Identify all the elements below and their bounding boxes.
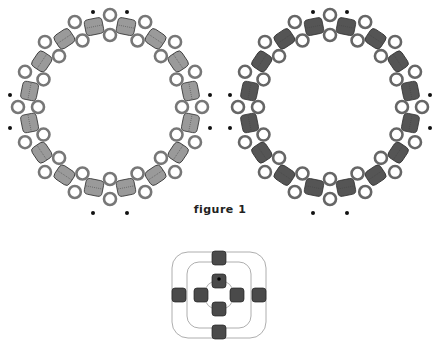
barrel-bead bbox=[84, 178, 105, 197]
ring-bead bbox=[139, 16, 151, 28]
ring-bead bbox=[296, 168, 308, 180]
cube-bead bbox=[212, 325, 226, 339]
ring-bead bbox=[155, 50, 167, 62]
ring-bead bbox=[189, 136, 201, 148]
ring-bead bbox=[324, 29, 336, 41]
ring-bead bbox=[76, 168, 88, 180]
barrel-bead bbox=[116, 178, 137, 197]
ring-bead bbox=[375, 152, 387, 164]
cube-bead bbox=[172, 288, 186, 302]
ring-bead bbox=[104, 173, 116, 185]
barrel-bead bbox=[304, 17, 325, 36]
cube-bead bbox=[212, 274, 226, 288]
ring-bead bbox=[69, 16, 81, 28]
ring-bead bbox=[375, 50, 387, 62]
ring-bead bbox=[53, 50, 65, 62]
ring-bead bbox=[232, 101, 244, 113]
marker-dot bbox=[125, 10, 129, 14]
ring-bead bbox=[416, 101, 428, 113]
ring-light bbox=[8, 9, 212, 215]
ring-bead bbox=[32, 101, 44, 113]
marker-dot bbox=[428, 126, 432, 130]
ring-bead bbox=[389, 166, 401, 178]
ring-bead bbox=[257, 73, 269, 85]
ring-bead bbox=[176, 101, 188, 113]
marker-dot bbox=[8, 93, 12, 97]
ring-bead bbox=[39, 166, 51, 178]
ring-bead bbox=[104, 9, 116, 21]
barrel-bead bbox=[273, 164, 297, 187]
ring-bead bbox=[155, 152, 167, 164]
marker-dot bbox=[208, 126, 212, 130]
ring-bead bbox=[352, 34, 364, 46]
ring-bead bbox=[259, 36, 271, 48]
marker-dot bbox=[311, 10, 315, 14]
cube-bead bbox=[212, 302, 226, 316]
barrel-bead bbox=[240, 81, 259, 102]
marker-dot bbox=[208, 93, 212, 97]
barrel-bead bbox=[20, 81, 39, 102]
ring-bead bbox=[104, 29, 116, 41]
ring-bead bbox=[239, 66, 251, 78]
ring-bead bbox=[273, 152, 285, 164]
barrel-bead bbox=[30, 50, 53, 74]
ring-bead bbox=[169, 36, 181, 48]
ring-bead bbox=[39, 36, 51, 48]
barrel-bead bbox=[167, 141, 190, 165]
ring-bead bbox=[171, 129, 183, 141]
barrel-bead bbox=[181, 81, 200, 102]
barrel-bead bbox=[273, 27, 297, 50]
marker-dot bbox=[228, 126, 232, 130]
barrel-bead bbox=[336, 178, 357, 197]
barrel-bead bbox=[116, 17, 137, 36]
ring-bead bbox=[257, 129, 269, 141]
ring-bead bbox=[132, 34, 144, 46]
ring-bead bbox=[289, 16, 301, 28]
barrel-bead bbox=[167, 50, 190, 74]
ring-bead bbox=[396, 101, 408, 113]
ring-bead bbox=[37, 73, 49, 85]
ring-bead bbox=[189, 66, 201, 78]
ring-bead bbox=[37, 129, 49, 141]
ring-bead bbox=[389, 36, 401, 48]
barrel-bead bbox=[250, 141, 273, 165]
ring-bead bbox=[409, 136, 421, 148]
ring-bead bbox=[76, 34, 88, 46]
barrel-bead bbox=[181, 113, 200, 134]
barrel-bead bbox=[387, 50, 410, 74]
start-dot bbox=[217, 277, 221, 281]
barrel-bead bbox=[336, 17, 357, 36]
barrel-bead bbox=[53, 164, 77, 187]
barrel-bead bbox=[144, 27, 168, 50]
ring-bead bbox=[19, 66, 31, 78]
ring-bead bbox=[259, 166, 271, 178]
figure-caption: figure 1 bbox=[0, 203, 440, 216]
ring-bead bbox=[273, 50, 285, 62]
barrel-bead bbox=[304, 178, 325, 197]
ring-bead bbox=[359, 186, 371, 198]
ring-bead bbox=[391, 73, 403, 85]
cube-bead bbox=[194, 288, 208, 302]
marker-dot bbox=[345, 10, 349, 14]
detail-diagram bbox=[172, 251, 266, 339]
ring-bead bbox=[289, 186, 301, 198]
ring-bead bbox=[239, 136, 251, 148]
marker-dot bbox=[428, 93, 432, 97]
marker-dot bbox=[91, 10, 95, 14]
barrel-bead bbox=[387, 141, 410, 165]
ring-bead bbox=[352, 168, 364, 180]
ring-bead bbox=[324, 173, 336, 185]
ring-bead bbox=[19, 136, 31, 148]
beadwork-diagram bbox=[0, 0, 440, 347]
ring-bead bbox=[169, 166, 181, 178]
ring-bead bbox=[139, 186, 151, 198]
ring-bead bbox=[196, 101, 208, 113]
cube-bead bbox=[212, 251, 226, 265]
barrel-bead bbox=[20, 113, 39, 134]
barrel-bead bbox=[364, 27, 388, 50]
barrel-bead bbox=[364, 164, 388, 187]
ring-bead bbox=[252, 101, 264, 113]
barrel-bead bbox=[84, 17, 105, 36]
ring-bead bbox=[132, 168, 144, 180]
cube-bead bbox=[230, 288, 244, 302]
